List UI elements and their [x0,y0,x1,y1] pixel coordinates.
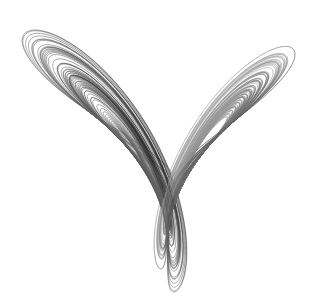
lorenz-attractor-figure [0,0,315,302]
attractor-canvas [0,0,315,302]
